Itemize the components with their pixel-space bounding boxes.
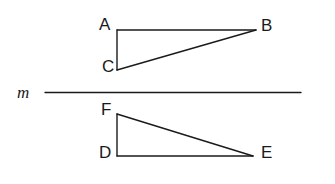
vertex-label-f: F	[101, 101, 111, 118]
segment-fe	[117, 114, 253, 156]
vertex-label-b: B	[261, 17, 272, 34]
vertex-label-e: E	[261, 144, 272, 161]
vertex-label-a: A	[99, 16, 110, 33]
geometry-canvas	[0, 0, 335, 184]
line-label-m: m	[17, 84, 29, 101]
triangle-abc	[117, 30, 256, 70]
vertex-label-d: D	[99, 144, 111, 161]
triangle-fde	[117, 114, 253, 156]
geometry-figure: A B C F D E m	[0, 0, 335, 184]
vertex-label-c: C	[102, 58, 114, 75]
segment-cb	[117, 30, 256, 70]
